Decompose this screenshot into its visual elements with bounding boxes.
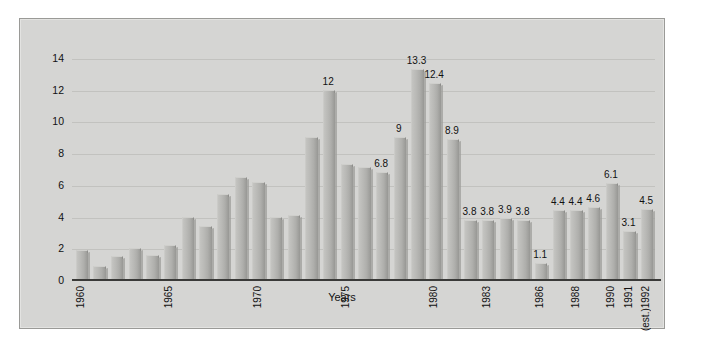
bar <box>464 220 477 281</box>
bar <box>553 210 566 281</box>
bar <box>217 194 230 281</box>
chart-figure: 02468101214 126.8913.312.48.93.83.83.93.… <box>0 0 701 351</box>
gridline <box>72 91 655 92</box>
bar-value-label: 3.1 <box>613 218 645 228</box>
bar <box>235 177 248 281</box>
bar-value-label: 12 <box>312 77 344 87</box>
chart-plot-area: 02468101214 126.8913.312.48.93.83.83.93.… <box>72 43 655 281</box>
gridline <box>72 122 655 123</box>
bar <box>482 220 495 281</box>
y-axis-tick-label: 10 <box>32 116 64 127</box>
bar <box>288 215 301 281</box>
bar <box>500 218 513 281</box>
bar <box>411 69 424 281</box>
bar-value-label: 12.4 <box>418 70 450 80</box>
y-axis-tick-label: 8 <box>32 148 64 159</box>
bar <box>76 250 89 281</box>
bar <box>623 231 636 281</box>
bar <box>270 217 283 281</box>
bar <box>146 255 159 281</box>
bar <box>164 245 177 281</box>
chart-x-axis-line <box>72 279 661 281</box>
bar <box>252 182 265 281</box>
bar-value-label: 6.1 <box>595 170 627 180</box>
bar <box>376 172 389 281</box>
bar <box>358 167 371 281</box>
bar-value-label: 8.9 <box>436 126 468 136</box>
bar-value-label: 6.8 <box>365 159 397 169</box>
bar <box>429 83 442 281</box>
bar <box>305 137 318 281</box>
gridline <box>72 154 655 155</box>
bar <box>570 210 583 281</box>
chart-plot-frame: 02468101214 126.8913.312.48.93.83.83.93.… <box>19 18 665 329</box>
bar <box>588 207 601 281</box>
bar-value-label: 3.8 <box>507 207 539 217</box>
y-axis-tick-label: 14 <box>32 53 64 64</box>
chart-x-axis-title: Years <box>20 291 664 303</box>
y-axis-tick-label: 0 <box>32 275 64 286</box>
y-axis-tick-label: 6 <box>32 180 64 191</box>
bar-value-label: 1.1 <box>524 250 556 260</box>
y-axis-tick-label: 2 <box>32 243 64 254</box>
bar <box>323 90 336 281</box>
bar <box>182 217 195 281</box>
y-axis-tick-label: 12 <box>32 85 64 96</box>
bar <box>111 256 124 281</box>
bar <box>129 248 142 281</box>
bar-value-label: 4.6 <box>577 194 609 204</box>
bar-value-label: 13.3 <box>401 56 433 66</box>
y-axis-tick-label: 4 <box>32 212 64 223</box>
bar-value-label: 4.5 <box>630 196 662 206</box>
gridline <box>72 59 655 60</box>
bar-value-label: 9 <box>383 124 415 134</box>
bar <box>341 164 354 281</box>
bar <box>199 226 212 281</box>
